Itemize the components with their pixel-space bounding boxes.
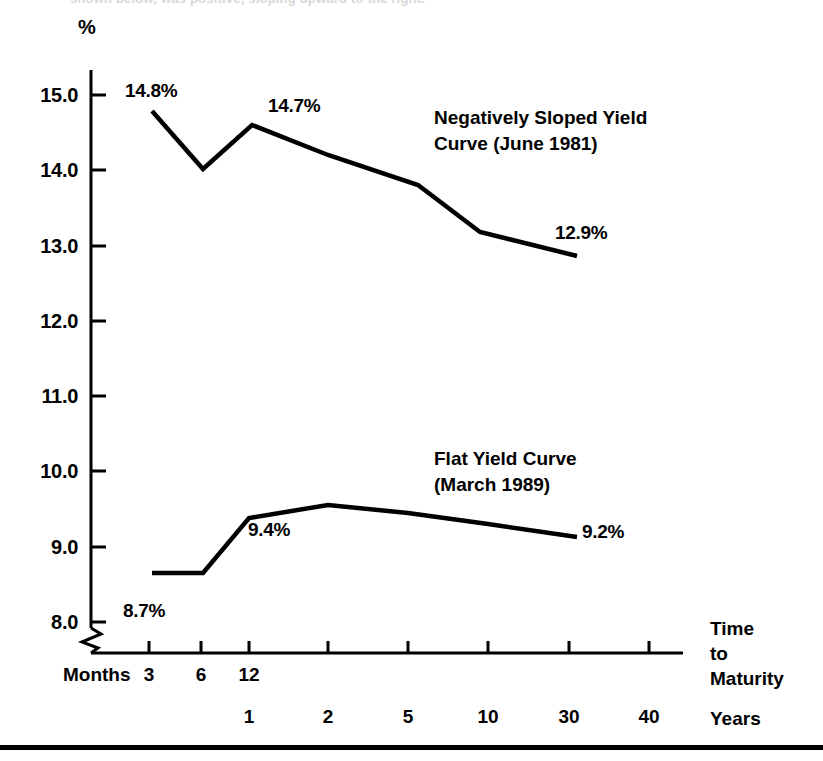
x-tick-label-6-months: 6 — [191, 664, 211, 686]
x-tick-label-30-years: 30 — [555, 706, 583, 728]
x-axis-months-word: Months — [63, 664, 131, 686]
x-tick-label-40-years: 40 — [635, 706, 663, 728]
series-label-negatively-sloped-line2: Curve (June 1981) — [434, 131, 647, 157]
x-tick-label-10-years: 10 — [474, 706, 502, 728]
bottom-rule-divider — [0, 745, 823, 750]
x-axis-caption: Time to Maturity — [710, 616, 784, 691]
x-tick-label-1-year: 1 — [239, 706, 259, 728]
series-label-negatively-sloped-line1: Negatively Sloped Yield — [434, 105, 647, 131]
point-label-129: 12.9% — [555, 222, 607, 244]
x-tick-label-2-years: 2 — [318, 706, 338, 728]
x-tick-label-3-months: 3 — [139, 664, 159, 686]
series-label-flat-line2: (March 1989) — [434, 472, 577, 498]
x-tick-label-5-years: 5 — [398, 706, 418, 728]
series-label-flat: Flat Yield Curve (March 1989) — [434, 446, 577, 498]
series-label-negatively-sloped: Negatively Sloped Yield Curve (June 1981… — [434, 105, 647, 157]
x-tick-label-12-months: 12 — [235, 664, 263, 686]
series-label-flat-line1: Flat Yield Curve — [434, 446, 577, 472]
plot-area — [0, 0, 823, 761]
series-line-flat — [152, 505, 577, 573]
y-axis-break-icon — [82, 628, 101, 653]
point-label-94: 9.4% — [248, 519, 290, 541]
x-axis-caption-line2: to — [710, 641, 784, 666]
x-axis-years-word: Years — [710, 706, 761, 731]
point-label-148: 14.8% — [125, 80, 177, 102]
point-label-87: 8.7% — [123, 600, 165, 622]
x-axis-caption-line3: Maturity — [710, 666, 784, 691]
y-tick-marks — [91, 95, 106, 622]
yield-curve-figure: shown below, was positive, sloping upwar… — [0, 0, 823, 761]
x-axis-caption-line1: Time — [710, 616, 784, 641]
point-label-92: 9.2% — [582, 521, 624, 543]
point-label-147: 14.7% — [268, 95, 320, 117]
x-tick-marks — [149, 641, 649, 653]
